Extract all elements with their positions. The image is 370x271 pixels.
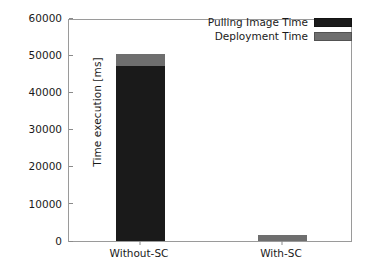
legend-swatch <box>314 32 352 41</box>
bar-stack <box>116 54 165 241</box>
y-tick-mark <box>69 92 73 93</box>
y-tick-label: 50000 <box>29 50 69 61</box>
legend-item: Pulling Image Time <box>218 15 352 29</box>
y-tick-label: 40000 <box>29 87 69 98</box>
plot-area: Time execution [ms] 01000020000300004000… <box>68 19 352 242</box>
y-tick-mark <box>69 241 73 242</box>
x-tick-label: With-SC <box>260 247 302 259</box>
y-tick-mark <box>69 18 73 19</box>
y-tick-mark <box>69 166 73 167</box>
y-tick-mark <box>69 129 73 130</box>
bar-segment <box>258 235 307 241</box>
y-tick-mark <box>69 55 73 56</box>
y-tick-label: 10000 <box>29 199 69 210</box>
legend-label: Pulling Image Time <box>208 17 308 28</box>
y-tick-label: 60000 <box>29 13 69 24</box>
bar-stack <box>258 235 307 241</box>
legend-item: Deployment Time <box>218 29 352 43</box>
legend-label: Deployment Time <box>215 31 308 42</box>
y-tick-label: 30000 <box>29 124 69 135</box>
x-tick-label: Without-SC <box>110 247 169 259</box>
chart-legend: Pulling Image TimeDeployment Time <box>218 15 352 43</box>
y-axis-title: Time execution [ms] <box>91 42 103 182</box>
y-tick-label: 0 <box>55 236 69 247</box>
legend-swatch <box>314 18 352 27</box>
y-tick-label: 20000 <box>29 161 69 172</box>
x-tick-mark <box>282 241 283 245</box>
x-tick-mark <box>140 241 141 245</box>
y-tick-mark <box>69 203 73 204</box>
bar-segment <box>116 54 165 66</box>
bar-segment <box>116 66 165 241</box>
bar-chart: Time execution [ms] 01000020000300004000… <box>0 0 370 271</box>
